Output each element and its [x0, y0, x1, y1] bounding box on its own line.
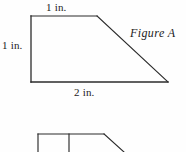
figure-a-left-length-label: 1 in. — [2, 39, 23, 51]
figure-b-diagonal-edge — [104, 134, 124, 152]
figure-a-top-length-label: 1 in. — [46, 1, 67, 13]
figure-screenshot: 1 in. 1 in. 2 in. Figure A — [0, 0, 186, 152]
figure-a-name-label: Figure A — [130, 27, 176, 39]
figure-b-partial — [38, 134, 124, 152]
geometry-figures-canvas — [0, 0, 186, 152]
figure-a-bottom-length-label: 2 in. — [74, 86, 95, 98]
